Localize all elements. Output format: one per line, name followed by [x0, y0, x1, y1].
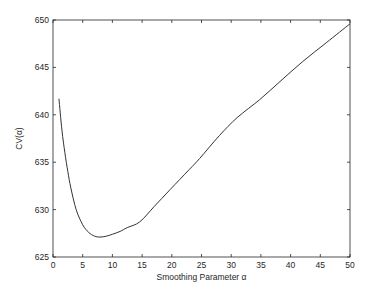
x-axis-label: Smoothing Parameter α	[157, 272, 247, 282]
x-tick-label: 10	[108, 260, 118, 270]
chart-background	[0, 0, 377, 296]
x-tick-label: 20	[167, 260, 177, 270]
x-tick-label: 0	[51, 260, 56, 270]
x-tick-label: 25	[197, 260, 207, 270]
x-tick-label: 30	[226, 260, 236, 270]
y-tick-label: 650	[35, 15, 49, 25]
y-tick-label: 625	[35, 252, 49, 262]
y-tick-label: 630	[35, 205, 49, 215]
x-tick-label: 50	[345, 260, 355, 270]
y-tick-label: 635	[35, 157, 49, 167]
x-tick-label: 45	[316, 260, 326, 270]
x-tick-label: 15	[137, 260, 147, 270]
y-tick-label: 645	[35, 62, 49, 72]
x-tick-label: 35	[256, 260, 266, 270]
y-axis-label: CV(α)	[14, 127, 24, 150]
x-tick-label: 5	[80, 260, 85, 270]
x-tick-label: 40	[286, 260, 296, 270]
y-tick-label: 640	[35, 110, 49, 120]
line-chart: 05101520253035404550 625630635640645650 …	[0, 0, 377, 296]
